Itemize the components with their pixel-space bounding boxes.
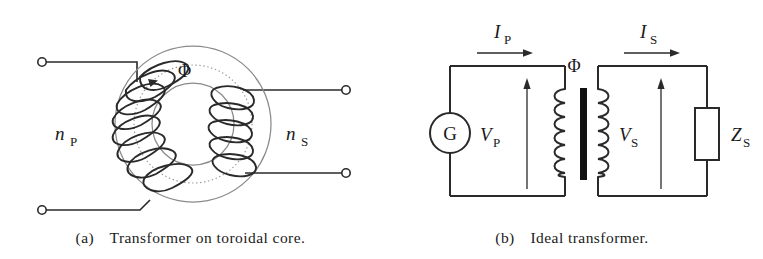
secondary-current-arrow — [624, 49, 680, 57]
primary-current-subscript: P — [504, 32, 511, 47]
caption-a-prefix: (a) — [76, 229, 95, 246]
label-primary-voltage: V P — [480, 124, 500, 150]
primary-current-arrow — [477, 49, 533, 57]
caption-b-prefix: (b) — [495, 229, 514, 246]
primary-voltage-subscript: P — [493, 135, 500, 150]
secondary-turns-symbol: n — [286, 123, 296, 144]
primary-current-arrowhead — [523, 49, 533, 57]
magnetic-core-bar — [580, 88, 587, 180]
generator-symbol: G — [430, 113, 470, 153]
lead-top-left — [46, 62, 137, 82]
terminal-bottom-right[interactable] — [342, 169, 350, 177]
flux-label-a: Φ — [178, 61, 191, 81]
primary-voltage-symbol: V — [480, 124, 494, 145]
caption-a: (a) Transformer on toroidal core. — [0, 229, 381, 247]
caption-b-text: Ideal transformer. — [530, 229, 648, 246]
label-secondary-turns: n S — [286, 123, 308, 149]
primary-coil — [555, 89, 566, 177]
primary-current-symbol: I — [493, 21, 502, 42]
secondary-coil — [598, 89, 609, 177]
primary-turns-subscript: P — [70, 134, 77, 149]
primary-turns-symbol: n — [55, 123, 65, 144]
figure-panel-a: n P n S Φ (a) Transformer on toroidal co… — [0, 0, 381, 259]
secondary-voltage-arrow — [657, 78, 664, 189]
primary-voltage-arrowhead — [523, 78, 530, 89]
secondary-winding — [208, 86, 256, 176]
label-secondary-current: I S — [639, 21, 657, 47]
secondary-turns-subscript: S — [301, 134, 308, 149]
label-load-impedance: Z S — [731, 124, 750, 150]
secondary-voltage-arrowhead — [657, 78, 664, 89]
label-primary-turns: n P — [55, 123, 77, 149]
label-secondary-voltage: V S — [619, 124, 638, 150]
figure-panel-b: G Φ — [381, 0, 763, 259]
generator-label: G — [443, 123, 457, 144]
terminal-top-right[interactable] — [342, 86, 350, 94]
lead-bottom-left — [46, 200, 150, 210]
load-impedance-box — [695, 108, 719, 160]
primary-voltage-arrow — [523, 78, 530, 189]
secondary-current-subscript: S — [650, 32, 657, 47]
toroidal-transformer-drawing: n P n S Φ — [0, 0, 381, 225]
figure-container: n P n S Φ (a) Transformer on toroidal co… — [0, 0, 763, 259]
secondary-current-symbol: I — [639, 21, 648, 42]
load-impedance-subscript: S — [743, 135, 750, 150]
flux-label-b: Φ — [567, 56, 580, 76]
terminal-bottom-left[interactable] — [38, 206, 46, 214]
secondary-voltage-subscript: S — [631, 135, 638, 150]
ideal-transformer-drawing: G Φ — [381, 0, 763, 225]
load-impedance-symbol: Z — [731, 124, 742, 145]
terminal-top-left[interactable] — [38, 58, 46, 66]
caption-a-text: Transformer on toroidal core. — [110, 229, 306, 246]
label-primary-current: I P — [493, 21, 511, 47]
secondary-circuit-loop — [598, 66, 707, 196]
secondary-current-arrowhead — [670, 49, 680, 57]
caption-b: (b) Ideal transformer. — [381, 229, 763, 247]
